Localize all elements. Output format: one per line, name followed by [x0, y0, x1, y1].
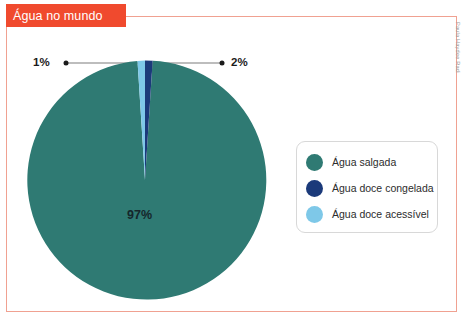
legend-label-agua-doce-congelada: Água doce congelada — [332, 182, 434, 194]
legend-item-agua-doce-congelada[interactable]: Água doce congelada — [306, 175, 437, 201]
legend-label-agua-doce-acessivel: Água doce acessível — [332, 208, 429, 220]
legend-item-agua-salgada[interactable]: Água salgada — [306, 149, 437, 175]
legend-swatch-icon-agua-doce-acessivel — [306, 206, 323, 223]
legend-item-agua-doce-acessivel[interactable]: Água doce acessível — [306, 201, 437, 227]
data-label-97pct: 97% — [127, 208, 152, 222]
image-credit: Paula Haydee Radi — [449, 22, 461, 122]
data-label-2pct: 2% — [231, 56, 248, 68]
legend: Água salgada Água doce congelada Água do… — [296, 141, 438, 233]
data-label-1pct: 1% — [33, 56, 50, 68]
legend-swatch-icon-agua-salgada — [306, 154, 323, 171]
legend-label-agua-salgada: Água salgada — [332, 156, 396, 168]
figure-root: Água no mundo 1% 2% 97% Água salgada — [0, 0, 471, 322]
legend-swatch-icon-agua-doce-congelada — [306, 180, 323, 197]
